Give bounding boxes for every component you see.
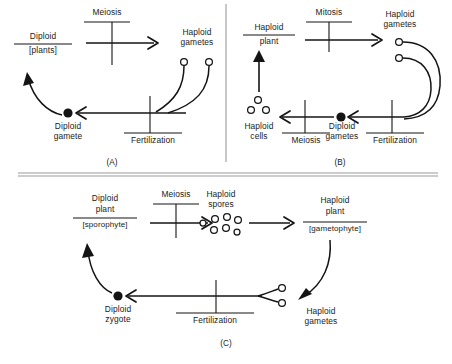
panel-c-tag: (C) xyxy=(206,339,246,348)
haploid-spore-circle xyxy=(211,227,218,234)
haploid-spore-circle xyxy=(224,214,231,221)
panel-c-graphics xyxy=(0,0,452,364)
diploid-zygote-dot xyxy=(113,291,122,300)
haploid-gamete-circle xyxy=(279,285,286,292)
haploid-spore-circle xyxy=(234,229,240,235)
figure-canvas: Meiosis Diploid [plants] Haploid gametes… xyxy=(0,0,452,364)
panel-c-sporophyte-label-line1: Diploid xyxy=(73,194,137,204)
panel-c-gametes-label-line2: gametes xyxy=(294,317,348,327)
panel-c-process-top-label: Meiosis xyxy=(153,190,199,200)
panel-c-sporophyte-bracket-label: [sporophyte] xyxy=(73,220,137,230)
panel-c-gametophyte-label-line1: Haploid xyxy=(303,196,367,206)
haploid-spore-circle xyxy=(235,217,242,224)
haploid-spore-circle xyxy=(200,220,206,226)
panel-c-zygote-label-line2: zygote xyxy=(91,315,145,325)
haploid-gamete-circle xyxy=(279,300,286,307)
haploid-spore-circle xyxy=(223,225,230,232)
panel-c-sporophyte-label-line2: plant xyxy=(73,205,137,215)
panel-c-spores-label-line2: spores xyxy=(194,200,248,210)
panel-c-process-bottom-label: Fertilization xyxy=(186,316,244,326)
panel-c-gametophyte-bracket-label: [gametophyte] xyxy=(301,224,369,234)
haploid-spore-circle xyxy=(212,216,219,223)
panel-c-gametophyte-label-line2: plant xyxy=(303,207,367,217)
